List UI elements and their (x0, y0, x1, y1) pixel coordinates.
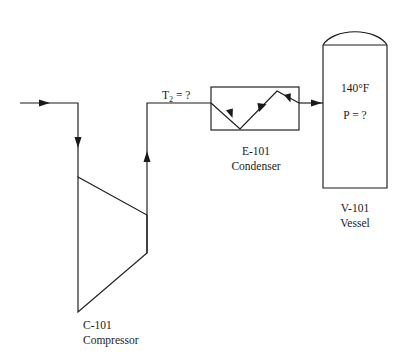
compressor-tag-label: C-101 (83, 319, 112, 331)
compressor-symbol (78, 177, 147, 312)
compressor-discharge-line (144, 103, 212, 253)
vessel-name-label: Vessel (340, 217, 369, 229)
inlet-down-flow-arrow-icon (75, 137, 82, 148)
inlet-flow-arrow-icon (39, 100, 50, 107)
vessel-inlet-arrow-icon (311, 100, 322, 107)
condenser-symbol (211, 87, 299, 130)
condenser-name-label: Condenser (231, 160, 280, 172)
condenser-leg1-arrow-icon (226, 109, 233, 119)
condenser-leg3-arrow-icon (284, 93, 291, 102)
inlet-pipe-path (20, 103, 78, 177)
condenser-leg2-arrow-icon (257, 103, 266, 112)
condenser-tag-label: E-101 (242, 145, 270, 157)
discharge-up-flow-arrow-icon (144, 151, 151, 162)
pfd-canvas: T2 = ? 140°F P = ? E-101 Condenser V-101… (0, 0, 407, 364)
discharge-pipe-path (147, 103, 211, 253)
compressor-trapezoid-shape (78, 177, 147, 312)
condenser-box-outline (211, 87, 299, 130)
discharge-temp-prefix: T (162, 89, 169, 101)
process-flow-diagram: T2 = ? 140°F P = ? E-101 Condenser V-101… (0, 0, 407, 364)
compressor-name-label: Compressor (83, 334, 139, 347)
vessel-tag-label: V-101 (341, 202, 370, 214)
discharge-temperature-label: T2 = ? (162, 89, 190, 104)
vessel-dome-head (323, 32, 387, 45)
vessel-pressure-label: P = ? (343, 109, 366, 121)
inlet-stream-line (20, 100, 82, 178)
vessel-temperature-label: 140°F (341, 82, 369, 94)
condenser-outlet-line (299, 100, 323, 107)
discharge-temp-value: = ? (173, 89, 190, 101)
